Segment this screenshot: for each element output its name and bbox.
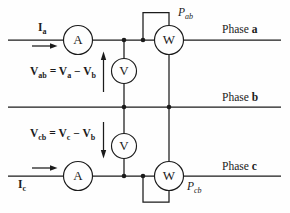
voltmeter-ab-letter: V [119,63,129,78]
junction-dot [122,174,127,179]
phase-c-label: Phase c [222,160,257,172]
phase-b-label: Phase b [222,91,258,103]
phase-a-label: Phase a [222,23,258,35]
ammeter-a-letter: A [73,32,83,47]
junction-dot [167,105,172,110]
junction-dot [122,38,127,43]
wattmeter-cb-letter: W [163,168,176,183]
ammeter-c-letter: A [73,168,83,183]
junction-dot [141,38,146,43]
wattmeter-ab-letter: W [163,32,176,47]
voltmeter-cb-letter: V [119,138,129,153]
two-wattmeter-circuit-diagram: A W V V A W Ia Ic Pab Pcb Vab = Va − Vb … [0,0,290,213]
junction-dot [141,174,146,179]
junction-dot [122,105,127,110]
